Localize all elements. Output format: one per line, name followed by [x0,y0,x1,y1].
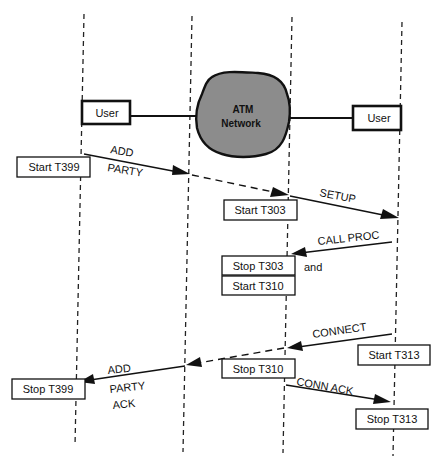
atm-network-label-line2: Network [221,118,261,129]
msg-setup-label: SETUP [319,186,357,205]
lifeline-network-ingress [183,16,192,452]
arrowhead [186,357,202,367]
timer-start-t310-label: Start T310 [232,280,283,292]
msg-conn-ack-label: CONN ACK [296,375,355,397]
atm-network-label-line1: ATM [233,104,254,115]
msg-ack-label-2: PARTY [109,379,146,395]
timer-stop-t303-label: Stop T303 [233,260,284,272]
timer-stop-t310-label: Stop T310 [233,363,284,375]
timer-stop-t399-label: Stop T399 [23,383,74,395]
sequence-diagram: ATM Network User User Start T399 ADD PAR… [0,0,448,466]
msg-ack-label-3: ACK [112,397,136,411]
arrowhead [380,209,399,219]
timer-stop-t313-label: Stop T313 [367,413,418,425]
msg-connect-label: CONNECT [312,320,368,339]
left-user-label: User [95,107,119,119]
timer-start-t303-label: Start T303 [234,204,285,216]
timer-start-t313-label: Start T313 [368,349,419,361]
arrowhead [373,394,391,404]
arrowhead [172,165,190,175]
msg-network-forward [192,175,278,193]
msg-add-party-label-1: ADD [110,143,135,158]
and-label: and [304,261,322,273]
right-user-label: User [367,112,391,124]
msg-add-party-ack [90,366,185,380]
msg-ack-label-1: ADD [107,362,131,376]
arrowhead [287,341,303,351]
timer-start-t399-label: Start T399 [28,161,79,173]
lifeline-called-user [393,22,402,456]
msg-add-party-label-2: PARTY [107,161,145,179]
arrowhead [270,187,289,197]
lifeline-network-egress [283,17,292,453]
